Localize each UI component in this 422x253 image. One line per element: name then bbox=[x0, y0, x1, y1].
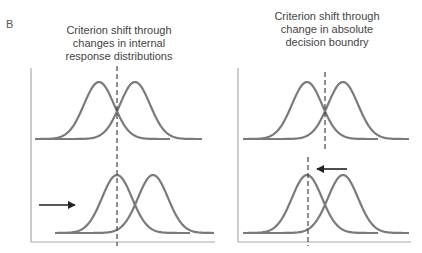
left-top-noise-curve bbox=[35, 82, 170, 139]
right-bottom-signal-curve bbox=[243, 175, 409, 233]
right-top-signal-curve bbox=[243, 82, 409, 139]
right-panel bbox=[238, 68, 411, 246]
signal-detection-figure bbox=[0, 0, 422, 253]
right-bottom-noise-curve bbox=[243, 175, 378, 233]
left-top-signal-curve bbox=[35, 82, 202, 139]
left-panel bbox=[31, 66, 215, 246]
left-bottom-signal-curve bbox=[55, 175, 214, 233]
right-top-noise-curve bbox=[243, 82, 378, 139]
